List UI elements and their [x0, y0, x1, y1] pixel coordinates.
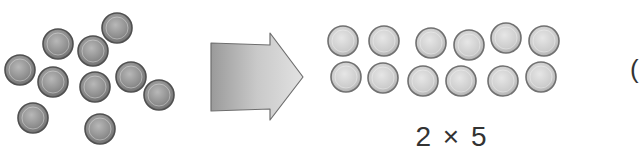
- multiplication-label: 2 × 5: [415, 121, 488, 151]
- right-arrow-icon: [211, 33, 303, 120]
- arranged-counters: [328, 23, 559, 96]
- scattered-counters: [5, 13, 174, 144]
- diagram-canvas: [0, 0, 639, 151]
- edge-parenthesis: (: [630, 54, 639, 85]
